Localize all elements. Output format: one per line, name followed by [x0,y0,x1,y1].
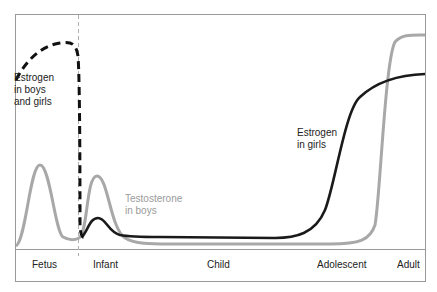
stage-adolescent: Adolescent [317,259,366,270]
label-estrogen-girls: Estrogen in girls [297,127,337,151]
label-line: in boys [14,84,54,96]
label-estrogen-both: Estrogen in boys and girls [14,72,54,108]
label-line: Estrogen [297,127,337,139]
stage-fetus: Fetus [32,259,57,270]
label-line: in boys [125,205,182,217]
label-line: and girls [14,96,54,108]
hormone-chart [0,0,437,292]
label-line: Estrogen [14,72,54,84]
stage-adult: Adult [397,259,420,270]
stage-infant: Infant [93,259,118,270]
label-line: in girls [297,139,337,151]
stage-child: Child [207,259,230,270]
label-line: Testosterone [125,193,182,205]
label-testosterone-boys: Testosterone in boys [125,193,182,217]
